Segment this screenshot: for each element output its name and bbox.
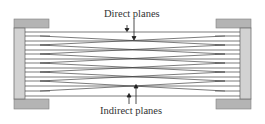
right-top-cap (216, 19, 251, 28)
left-end-plate (14, 19, 49, 109)
right-vertical-bar (240, 28, 251, 99)
indirect-planes-label: Indirect planes (100, 105, 162, 116)
plane-lines (25, 32, 240, 96)
direct-planes-label: Direct planes (104, 8, 160, 19)
arrow-down-icon (125, 29, 129, 32)
right-bottom-cap (216, 99, 251, 109)
direct-planes-arrows (125, 19, 136, 40)
arrow-up-icon (134, 85, 138, 89)
indirect-planes-arrows (127, 85, 138, 105)
right-end-plate (216, 19, 251, 109)
arrow-up-icon (127, 94, 131, 98)
arrow-down-icon (132, 37, 136, 41)
left-top-cap (14, 19, 49, 28)
left-bottom-cap (14, 99, 49, 109)
left-vertical-bar (14, 28, 25, 99)
